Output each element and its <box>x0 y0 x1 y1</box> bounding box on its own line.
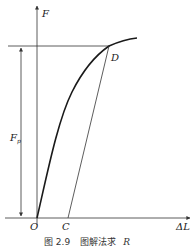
y-axis-label: F <box>41 8 50 19</box>
diagram: F D Fp O C ΔL 图 2.9 图解法求 R <box>0 0 196 250</box>
origin-label: O <box>30 221 38 232</box>
fp-label: Fp <box>9 132 21 145</box>
point-c-label: C <box>62 221 70 232</box>
caption-variable: R <box>122 237 130 247</box>
caption-text: 图解法求 <box>80 236 116 247</box>
point-d-label: D <box>110 52 119 63</box>
line-cd <box>68 46 109 218</box>
x-axis-label: ΔL <box>175 221 190 232</box>
figure-caption: 图 2.9 图解法求 R <box>44 231 130 248</box>
fp-label-sub: p <box>17 137 21 145</box>
force-curve <box>37 38 137 218</box>
caption-prefix: 图 2.9 <box>44 237 70 247</box>
